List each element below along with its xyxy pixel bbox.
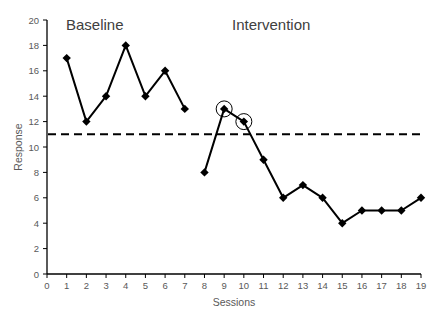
x-tick-label: 6 (162, 280, 167, 291)
y-axis-title: Response (12, 123, 24, 170)
x-tick-label: 0 (44, 280, 49, 291)
x-tick-label: 3 (103, 280, 108, 291)
x-tick-label: 16 (357, 280, 368, 291)
diamond-marker (377, 206, 385, 214)
diamond-marker (200, 168, 208, 176)
x-tick-label: 2 (84, 280, 89, 291)
diamond-marker (181, 105, 189, 113)
x-tick-label: 1 (64, 280, 69, 291)
x-tick-label: 14 (317, 280, 328, 291)
x-tick-label: 8 (202, 280, 207, 291)
y-tick-label: 14 (28, 91, 39, 102)
x-tick-label: 13 (298, 280, 309, 291)
y-tick-label: 12 (28, 116, 39, 127)
x-tick-label: 5 (143, 280, 148, 291)
single-case-line-chart: 02468101214161820 0123456789101112131415… (0, 0, 442, 323)
x-tick-label: 7 (182, 280, 187, 291)
x-tick-label: 11 (259, 280, 269, 291)
y-tick-label: 20 (28, 15, 39, 26)
x-tick-label: 17 (376, 280, 387, 291)
x-tick-label: 15 (337, 280, 348, 291)
x-tick-label: 12 (278, 280, 289, 291)
y-tick-label: 4 (34, 218, 39, 229)
x-axis-ticks: 012345678910111213141516171819 (44, 274, 426, 291)
y-tick-label: 0 (34, 269, 39, 280)
x-tick-label: 19 (416, 280, 427, 291)
y-axis-ticks: 02468101214161820 (28, 15, 47, 280)
y-tick-label: 8 (34, 167, 39, 178)
y-tick-label: 16 (28, 65, 39, 76)
y-tick-label: 6 (34, 192, 39, 203)
phase-label-baseline: Baseline (66, 16, 124, 33)
phase-label-intervention: Intervention (232, 16, 310, 33)
y-tick-label: 18 (28, 40, 39, 51)
x-axis-title: Sessions (213, 296, 256, 308)
y-tick-label: 10 (28, 142, 39, 153)
x-tick-label: 18 (396, 280, 407, 291)
x-tick-label: 10 (239, 280, 250, 291)
x-tick-label: 9 (222, 280, 227, 291)
diamond-marker (62, 54, 70, 62)
x-tick-label: 4 (123, 280, 128, 291)
series-line-baseline (67, 45, 185, 121)
y-tick-label: 2 (34, 243, 39, 254)
diamond-marker (122, 41, 130, 49)
diamond-marker (259, 156, 267, 164)
